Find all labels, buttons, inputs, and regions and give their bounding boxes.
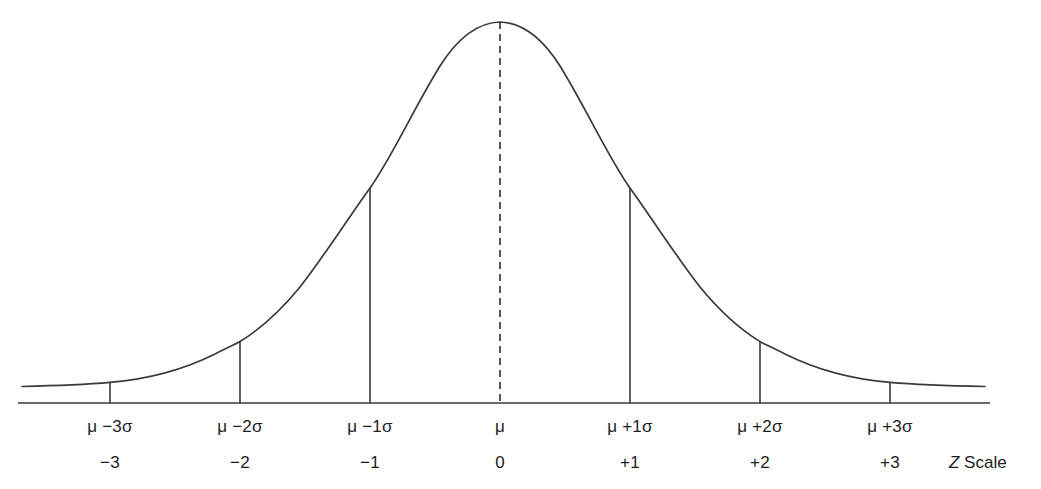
tick-label-sigma-plus-2: μ +2σ — [737, 418, 782, 435]
tick-label-z-plus-1: +1 — [620, 454, 640, 471]
tick-label-z-minus-1: −1 — [360, 454, 380, 471]
tick-label-sigma-mu: μ — [495, 418, 505, 435]
z-scale-axis-caption: Z Scale — [949, 454, 1007, 471]
tick-label-z-zero: 0 — [495, 454, 505, 471]
tick-label-z-plus-2: +2 — [750, 454, 770, 471]
distribution-curve-graphic — [0, 0, 1041, 489]
tick-label-sigma-minus-1: μ −1σ — [347, 418, 392, 435]
tick-label-sigma-minus-2: μ −2σ — [217, 418, 262, 435]
normal-distribution-figure: μ −3σ μ −2σ μ −1σ μ μ +1σ μ +2σ μ +3σ −3… — [0, 0, 1041, 489]
z-scale-caption-symbol: Z — [949, 453, 959, 472]
z-scale-caption-text: Scale — [959, 453, 1006, 472]
tick-label-z-minus-3: −3 — [100, 454, 120, 471]
tick-label-sigma-plus-1: μ +1σ — [607, 418, 652, 435]
tick-label-z-plus-3: +3 — [880, 454, 900, 471]
tick-label-z-minus-2: −2 — [230, 454, 250, 471]
bell-curve-path — [22, 22, 985, 387]
tick-label-sigma-minus-3: μ −3σ — [87, 418, 132, 435]
tick-label-sigma-plus-3: μ +3σ — [867, 418, 912, 435]
